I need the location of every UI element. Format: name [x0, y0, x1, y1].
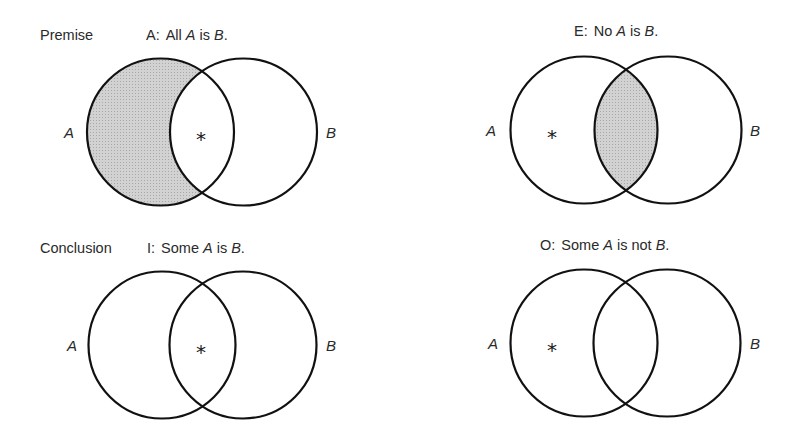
- row-label-conclusion: Conclusion: [40, 240, 112, 256]
- circle-set-b: [170, 59, 317, 206]
- panel-e-title: E:No A is B.: [574, 23, 658, 39]
- panel-o-title: O:Some A is not B.: [540, 237, 669, 253]
- circle-set-a: [511, 270, 658, 417]
- circle-set-b: [170, 272, 317, 419]
- set-label-a: A: [66, 337, 77, 354]
- asterisk-marker: *: [547, 125, 557, 149]
- panel-o-some-a-is-not-b: O:Some A is not B. A B *: [487, 237, 760, 417]
- asterisk-marker: *: [196, 127, 206, 151]
- panel-e-no-a-is-b: E:No A is B. A B *: [485, 23, 760, 204]
- panel-a-all-a-is-b: Premise A:All A is B. A B *: [40, 27, 336, 206]
- circle-set-a: [89, 272, 236, 419]
- panel-a-title: A:All A is B.: [146, 27, 228, 43]
- asterisk-marker: *: [547, 338, 557, 362]
- panel-i-title: I:Some A is B.: [147, 240, 245, 256]
- asterisk-marker: *: [196, 340, 206, 364]
- set-label-b: B: [326, 124, 336, 141]
- row-label-premise: Premise: [40, 27, 93, 43]
- set-label-a: A: [487, 335, 498, 352]
- set-label-b: B: [750, 335, 760, 352]
- set-label-b: B: [750, 122, 760, 139]
- set-label-a: A: [63, 124, 74, 141]
- venn-diagram-figure: Premise A:All A is B. A B * E:No A is B.…: [0, 0, 799, 441]
- set-label-b: B: [326, 337, 336, 354]
- panel-i-some-a-is-b: Conclusion I:Some A is B. A B *: [40, 240, 336, 419]
- circle-set-b: [594, 270, 741, 417]
- set-label-a: A: [485, 122, 496, 139]
